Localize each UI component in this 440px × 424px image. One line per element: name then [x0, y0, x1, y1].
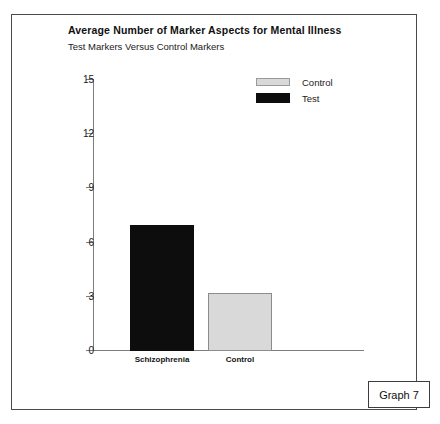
figure-page: Average Number of Marker Aspects for Men…: [0, 0, 440, 424]
x-axis-label-control: Control: [178, 355, 302, 364]
graph-caption-box: Graph 7: [368, 381, 430, 408]
bar-schizophrenia-test: [130, 225, 194, 351]
plot-area: 03691215 Schizophrenia Control: [0, 0, 440, 424]
bars-layer: [0, 0, 440, 351]
bar-control: [208, 293, 272, 351]
